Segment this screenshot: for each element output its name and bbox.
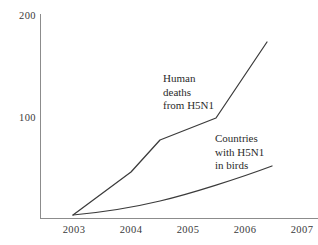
- y-axis-tick-100: 100: [6, 112, 36, 123]
- x-axis-tick-2004: 2004: [109, 224, 153, 235]
- annotation-human-deaths-line-3: from H5N1: [163, 99, 214, 113]
- series-line-human-deaths: [73, 42, 267, 215]
- x-axis-tick-2007: 2007: [280, 224, 318, 235]
- annotation-human-deaths-line-2: deaths: [163, 86, 214, 100]
- annotation-human-deaths: Human deaths from H5N1: [163, 72, 214, 113]
- x-axis-tick-2005: 2005: [166, 224, 210, 235]
- y-axis-tick-200: 200: [6, 10, 36, 21]
- annotation-countries-birds: Countries with H5N1 in birds: [215, 132, 264, 173]
- x-axis-tick-2006: 2006: [223, 224, 267, 235]
- line-chart-figure: 200 100 2003 2004 2005 2006 2007 Human d…: [0, 0, 318, 245]
- annotation-countries-birds-line-3: in birds: [215, 159, 264, 173]
- annotation-countries-birds-line-1: Countries: [215, 132, 264, 146]
- annotation-human-deaths-line-1: Human: [163, 72, 214, 86]
- annotation-countries-birds-line-2: with H5N1: [215, 146, 264, 160]
- chart-plot-area: [0, 0, 318, 245]
- series-line-countries-birds: [73, 166, 272, 215]
- x-axis-tick-2003: 2003: [52, 224, 96, 235]
